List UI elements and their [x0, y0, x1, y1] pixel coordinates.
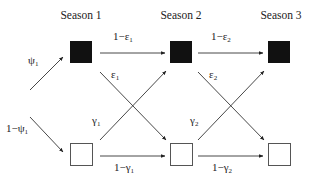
- label-gamma1: γ1: [91, 114, 101, 128]
- season-1-label: Season 1: [60, 9, 101, 21]
- label-1-minus-gamma1: 1−γ1: [114, 161, 135, 175]
- diagram-svg: Season 1 Season 2 Season 3 ψ1 1−ψ1 1−ε1 …: [0, 0, 310, 179]
- occupancy-transition-diagram: Season 1 Season 2 Season 3 ψ1 1−ψ1 1−ε1 …: [0, 0, 310, 179]
- label-eps2: ε2: [209, 68, 218, 82]
- season-3-label: Season 3: [260, 9, 301, 21]
- label-1-minus-psi1: 1−ψ1: [6, 122, 29, 136]
- season-1-unoccupied-state: [71, 144, 93, 166]
- label-gamma2: γ2: [189, 114, 199, 128]
- label-eps1: ε1: [111, 68, 120, 82]
- arrow-1-minus-psi1: [30, 117, 63, 152]
- season-3-unoccupied-state: [269, 144, 291, 166]
- season-2-label: Season 2: [160, 9, 201, 21]
- label-1-minus-eps2: 1−ε2: [211, 30, 231, 44]
- season-1-occupied-state: [70, 41, 92, 63]
- season-2-unoccupied-state: [171, 144, 193, 166]
- label-psi1: ψ1: [28, 54, 39, 68]
- season-2-occupied-state: [170, 41, 192, 63]
- label-1-minus-eps1: 1−ε1: [113, 30, 133, 44]
- season-3-occupied-state: [268, 41, 290, 63]
- label-1-minus-gamma2: 1−γ2: [212, 161, 233, 175]
